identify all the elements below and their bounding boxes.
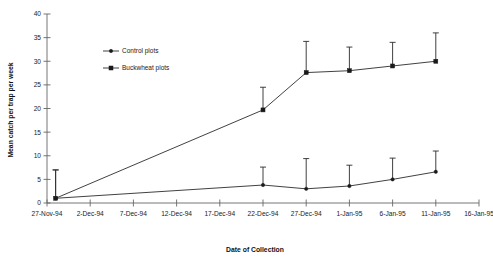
data-point-marker: [305, 187, 308, 190]
x-axis: 27-Nov-942-Dec-947-Dec-9412-Dec-9417-Dec…: [32, 200, 493, 218]
x-tick-label: 27-Dec-94: [291, 210, 322, 217]
x-tick-label: 11-Jan-95: [421, 210, 451, 217]
y-axis: 0510152025303540: [34, 10, 51, 206]
x-tick-label: 16-Jan-95: [464, 210, 493, 217]
chart-container: 0510152025303540 27-Nov-942-Dec-947-Dec-…: [0, 0, 493, 259]
y-tick-label: 35: [34, 34, 42, 41]
x-axis-title: Date of Collection: [226, 246, 284, 253]
y-tick-label: 0: [37, 199, 41, 206]
data-point-marker: [348, 184, 351, 187]
y-tick-label: 40: [34, 10, 42, 17]
y-tick-label: 30: [34, 58, 42, 65]
data-point-marker: [304, 71, 308, 75]
data-point-marker: [391, 178, 394, 181]
x-tick-label: 22-Dec-94: [248, 210, 279, 217]
y-tick-label: 5: [37, 176, 41, 183]
legend-label: Control plots: [122, 47, 159, 55]
data-point-marker: [347, 69, 351, 73]
series-line-buckwheat-plots: [56, 61, 436, 198]
y-tick-label: 20: [34, 105, 42, 112]
series-group: [53, 33, 439, 200]
x-tick-label: 2-Dec-94: [77, 210, 104, 217]
data-point-marker: [261, 183, 264, 186]
legend-marker: [109, 49, 112, 52]
data-point-marker: [434, 170, 437, 173]
x-tick-label: 6-Jan-95: [380, 210, 406, 217]
y-tick-label: 25: [34, 81, 42, 88]
y-tick-label: 10: [34, 152, 42, 159]
x-tick-label: 17-Dec-94: [204, 210, 235, 217]
legend-marker: [109, 66, 113, 70]
x-tick-label: 1-Jan-95: [336, 210, 362, 217]
y-axis-title: Mean catch per trap per week: [7, 62, 15, 157]
chart-legend: Control plotsBuckwheat plots: [103, 47, 170, 72]
data-point-marker: [391, 64, 395, 68]
series-line-control-plots: [56, 172, 436, 198]
data-point-marker: [54, 196, 58, 200]
x-tick-label: 12-Dec-94: [161, 210, 192, 217]
data-point-marker: [261, 108, 265, 112]
data-point-marker: [434, 59, 438, 63]
y-tick-label: 15: [34, 129, 42, 136]
line-chart: 0510152025303540 27-Nov-942-Dec-947-Dec-…: [0, 0, 493, 259]
x-tick-label: 27-Nov-94: [32, 210, 63, 217]
x-tick-label: 7-Dec-94: [120, 210, 147, 217]
legend-label: Buckwheat plots: [122, 64, 170, 72]
